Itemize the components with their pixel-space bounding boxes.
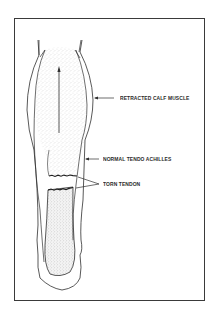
label-torn-tendon: TORN TENDON: [103, 182, 140, 187]
torn-edge-upper: [49, 175, 77, 176]
calf-muscle-region: [36, 47, 87, 176]
lower-tendon-stump: [45, 187, 75, 276]
label-retracted-calf-muscle: RETRACTED CALF MUSCLE: [120, 96, 189, 101]
normal-tendon-pointer-icon: [85, 158, 99, 161]
torn-tendon-pointer-icon: [76, 177, 99, 188]
label-normal-tendo-achilles: NORMAL TENDO ACHILLES: [103, 157, 171, 162]
calf-muscle-pointer-icon: [94, 97, 114, 100]
